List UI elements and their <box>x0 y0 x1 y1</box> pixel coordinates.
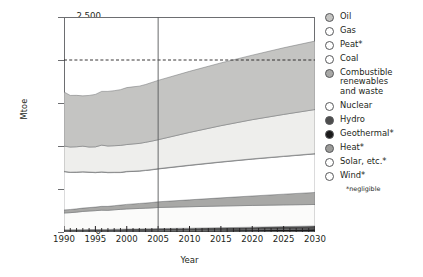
legend-item-combustible[interactable]: Combustible renewables and waste <box>325 68 423 96</box>
legend-item-peat[interactable]: Peat* <box>325 40 423 50</box>
legend-item-hydro[interactable]: Hydro <box>325 115 423 125</box>
legend-label: Nuclear <box>340 101 372 110</box>
legend-item-wind[interactable]: Wind* <box>325 171 423 181</box>
x-axis-title: Year <box>64 255 315 265</box>
legend-label: Combustible renewables and waste <box>340 68 393 96</box>
legend: OilGasPeat*CoalCombustible renewables an… <box>325 12 423 193</box>
legend-item-solar-etc[interactable]: Solar, etc.* <box>325 157 423 167</box>
filled-circle-black-icon <box>325 130 334 139</box>
y-axis-title: Mtoe <box>19 79 29 139</box>
legend-item-geothermal[interactable]: Geothermal* <box>325 129 423 139</box>
legend-label: Peat* <box>340 40 363 49</box>
stacked-area-series <box>64 17 315 232</box>
legend-item-nuclear[interactable]: Nuclear <box>325 101 423 111</box>
legend-footnote: *negligible <box>346 185 423 193</box>
y-tick-mark <box>58 232 64 233</box>
filled-circle-midgray-icon <box>325 13 334 22</box>
filled-circle-darkgray-icon <box>325 116 334 125</box>
open-circle-icon <box>325 55 334 64</box>
filled-circle-gray-icon <box>325 69 334 78</box>
open-circle-icon <box>325 158 334 167</box>
legend-label: Gas <box>340 26 356 35</box>
legend-item-heat[interactable]: Heat* <box>325 143 423 153</box>
legend-item-oil[interactable]: Oil <box>325 12 423 22</box>
legend-label: Solar, etc.* <box>340 157 387 166</box>
plot-area <box>64 17 315 232</box>
legend-label: Coal <box>340 54 358 63</box>
chart-figure: Mtoe 05001,0001,5002,0002,500 1990199520… <box>0 0 423 277</box>
open-circle-icon <box>325 102 334 111</box>
filled-circle-midgray-icon <box>325 144 334 153</box>
legend-item-coal[interactable]: Coal <box>325 54 423 64</box>
legend-label: Heat* <box>340 143 364 152</box>
legend-label: Geothermal* <box>340 129 394 138</box>
open-circle-icon <box>325 27 334 36</box>
x-tick-label: 2030 <box>295 234 335 244</box>
legend-label: Wind* <box>340 171 365 180</box>
open-circle-icon <box>325 41 334 50</box>
open-circle-icon <box>325 172 334 181</box>
legend-label: Oil <box>340 12 351 21</box>
legend-item-gas[interactable]: Gas <box>325 26 423 36</box>
legend-label: Hydro <box>340 115 365 124</box>
